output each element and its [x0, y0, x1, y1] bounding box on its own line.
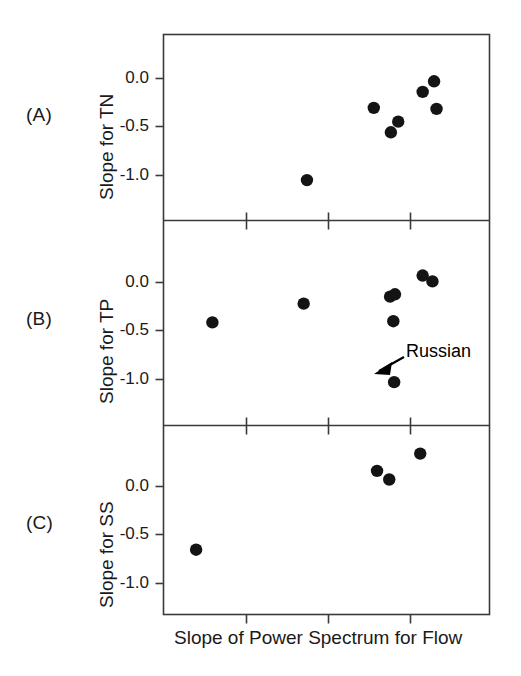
plot-canvas	[0, 0, 521, 676]
data-point	[392, 115, 404, 127]
data-points-panel-a	[301, 75, 443, 186]
data-point	[385, 126, 397, 138]
data-point	[190, 544, 202, 556]
data-point	[297, 297, 309, 309]
figure-root: (A) (B) (C) Slope for TN Slope for TP Sl…	[0, 0, 521, 676]
data-point	[371, 465, 383, 477]
data-point	[387, 315, 399, 327]
data-point	[383, 473, 395, 485]
data-point	[430, 103, 442, 115]
data-point	[368, 102, 380, 114]
data-point	[206, 316, 218, 328]
data-points-panel-c	[190, 447, 427, 556]
data-point	[426, 275, 438, 287]
data-points-panel-b	[206, 269, 438, 388]
annotation-russian-arrow	[374, 357, 404, 375]
data-point	[416, 86, 428, 98]
data-point	[388, 376, 400, 388]
data-point	[389, 288, 401, 300]
data-point	[414, 447, 426, 459]
data-point	[301, 174, 313, 186]
data-point	[428, 75, 440, 87]
